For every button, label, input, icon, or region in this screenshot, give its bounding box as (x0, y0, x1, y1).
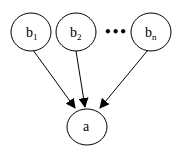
node-b1-subscript: 1 (33, 32, 38, 42)
node-bn-label: b (145, 25, 152, 40)
node-b1-label: b (26, 25, 33, 40)
node-b2: b2 (56, 13, 96, 51)
node-bn: bn (131, 13, 171, 51)
edge-b1-to-a (33, 50, 75, 108)
edge-b2-to-a (76, 51, 85, 107)
edge-bn-to-a (100, 50, 148, 108)
ellipsis-dots: ••• (104, 25, 127, 39)
dependency-diagram: b1 b2 ••• bn a (0, 0, 180, 152)
node-a: a (67, 109, 107, 145)
node-b2-subscript: 2 (77, 32, 82, 42)
node-b2-label: b (70, 25, 77, 40)
node-a-label: a (83, 119, 90, 134)
node-b1: b1 (11, 13, 51, 51)
node-bn-subscript: n (152, 32, 157, 42)
